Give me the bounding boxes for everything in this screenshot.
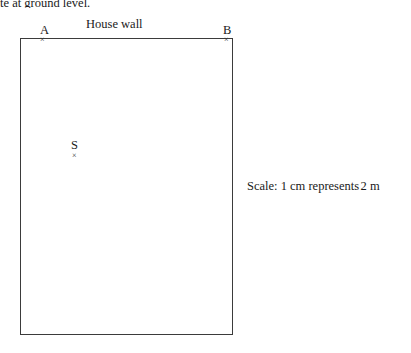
scale-note-prefix: Scale: 1 cm represents <box>247 179 359 193</box>
house-wall-label: House wall <box>86 17 143 32</box>
clipped-question-text: te at ground level. <box>0 0 90 8</box>
scale-note-value: 2 m <box>359 179 380 193</box>
point-b-cross-icon: × <box>224 36 229 44</box>
scale-note: Scale: 1 cm represents2 m <box>247 179 380 194</box>
point-s-cross-icon: × <box>72 152 77 160</box>
house-plan-rectangle <box>20 38 233 335</box>
point-a-cross-icon: × <box>40 36 45 44</box>
diagram-page: te at ground level. House wall A × B × S… <box>0 0 411 353</box>
